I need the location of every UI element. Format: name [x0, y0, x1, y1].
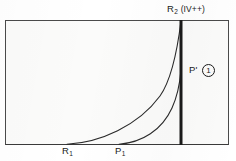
- label-r2-subscript: 2: [174, 8, 178, 15]
- label-p1: P1: [115, 146, 125, 156]
- label-p1-subscript: 1: [122, 150, 126, 157]
- label-p1-base: P: [115, 145, 121, 156]
- label-r2-annotation: (IV++): [181, 4, 205, 14]
- figure-container: R2(IV++) R1 P1 P' 1: [0, 0, 236, 161]
- circled-number-one: 1: [202, 64, 215, 77]
- label-p-prime: P': [189, 65, 197, 75]
- label-r1-subscript: 1: [69, 150, 73, 157]
- label-r2: R2(IV++): [167, 4, 205, 14]
- figure-drawing: [0, 0, 236, 161]
- label-r1: R1: [62, 146, 73, 156]
- plot-area-fill: [6, 21, 229, 145]
- label-r2-base: R: [167, 3, 174, 14]
- circled-number-value: 1: [206, 66, 210, 75]
- label-p-prime-mark: ': [195, 64, 197, 75]
- label-r1-base: R: [62, 145, 69, 156]
